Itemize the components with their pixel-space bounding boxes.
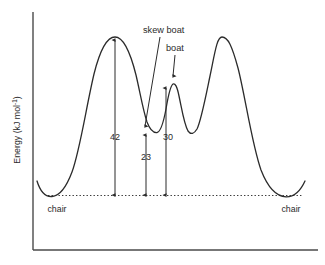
svg-text:Energy (kJ mol-1): Energy (kJ mol-1) bbox=[11, 96, 23, 163]
skew-boat-label: skew boat bbox=[143, 25, 185, 35]
energy-profile-plot: skew boat boat chair chair 42 23 30 Ener… bbox=[0, 0, 325, 265]
boat-label: boat bbox=[166, 43, 184, 53]
energy-curve-path bbox=[37, 37, 305, 197]
energy-value-30: 30 bbox=[163, 132, 173, 142]
skew-boat-leader-line bbox=[145, 37, 160, 126]
chair-label-right: chair bbox=[281, 204, 300, 214]
energy-value-23: 23 bbox=[141, 152, 151, 162]
y-axis-title-group: Energy (kJ mol-1) bbox=[11, 96, 23, 163]
chair-label-left: chair bbox=[47, 204, 66, 214]
energy-diagram-figure: skew boat boat chair chair 42 23 30 Ener… bbox=[0, 0, 325, 265]
boat-leader-line bbox=[173, 55, 175, 76]
y-axis-title-main: Energy (kJ mol bbox=[12, 105, 22, 164]
y-axis-title-close: ) bbox=[12, 96, 22, 99]
energy-value-42: 42 bbox=[110, 132, 120, 142]
